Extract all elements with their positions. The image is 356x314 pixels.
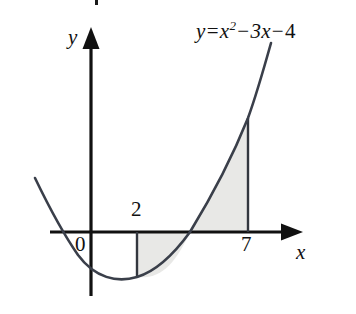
equation-term-linear: 3x <box>250 19 270 43</box>
origin-label: 0 <box>75 234 86 255</box>
y-axis-arrow-icon <box>83 27 100 49</box>
tick-label-7: 7 <box>241 234 252 255</box>
equation-annotation: y=x2−3x−4 <box>196 21 296 42</box>
scan-artifact <box>95 0 98 5</box>
plot-canvas <box>0 0 356 314</box>
shaded-region-below-axis <box>137 232 190 277</box>
y-axis-label: y <box>68 27 77 48</box>
x-axis-arrow-icon <box>281 224 303 241</box>
equation-term-base: x <box>220 19 230 43</box>
equation-minus-2: − <box>271 19 285 43</box>
equation-equals: = <box>206 19 220 43</box>
equation-lhs: y <box>196 19 206 43</box>
equation-constant: 4 <box>285 19 296 43</box>
x-axis-label: x <box>296 242 305 263</box>
tick-label-2: 2 <box>131 199 142 220</box>
math-figure: y x 0 2 7 y=x2−3x−4 <box>0 0 356 314</box>
equation-minus-1: − <box>236 19 250 43</box>
